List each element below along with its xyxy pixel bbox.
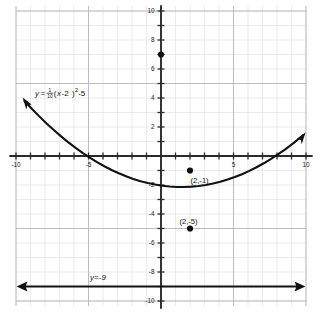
equation-equals: = — [41, 89, 46, 98]
x-tick-label-neg10: -10 — [11, 161, 21, 168]
y-tick-label-8: 8 — [151, 36, 155, 43]
y-tick-label-6: 6 — [151, 65, 155, 72]
line-equation-label: y=-9 — [89, 273, 106, 282]
y-tick-label-neg8: -8 — [149, 268, 155, 275]
equation-fraction-denominator: 10 — [47, 94, 53, 99]
y-tick-label-4: 4 — [151, 94, 155, 101]
y-tick-label-neg4: -4 — [149, 210, 155, 217]
point-label-2-neg5: (2,-5) — [179, 217, 198, 226]
y-tick-label-10: 10 — [147, 7, 155, 14]
point-2-neg1-dot — [187, 167, 193, 173]
equation-minus-five: -5 — [78, 89, 86, 98]
y-tick-label-2: 2 — [151, 123, 155, 130]
parabola-equation-label: y = 1 10 ( x -2 ) 2 -5 — [34, 87, 86, 98]
y-tick-label-neg10: -10 — [145, 297, 155, 304]
equation-fraction-numerator: 1 — [49, 88, 52, 93]
graph-canvas: -10 -5 5 10 10 8 6 4 2 -2 -4 -6 -8 -10 (… — [0, 0, 321, 314]
x-tick-label-5: 5 — [232, 161, 236, 168]
x-tick-label-10: 10 — [302, 161, 310, 168]
x-tick-label-neg5: -5 — [86, 161, 92, 168]
point-label-2-neg1: (2,-1) — [191, 176, 210, 185]
coordinate-plane-svg: -10 -5 5 10 10 8 6 4 2 -2 -4 -6 -8 -10 (… — [0, 0, 321, 314]
equation-minus-two: -2 — [62, 89, 70, 98]
point-y-intercept-dot — [158, 51, 164, 57]
point-vertex-dot — [187, 225, 193, 231]
y-tick-label-neg6: -6 — [149, 239, 155, 246]
